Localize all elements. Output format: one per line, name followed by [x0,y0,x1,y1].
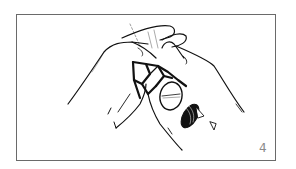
thread-line [130,24,158,48]
step-number: 4 [259,142,267,154]
netting-shuttle [177,101,204,131]
net-mesh [133,62,186,98]
hands-knot-illustration [0,0,296,169]
right-hand [138,42,244,150]
arrow-marker [210,122,216,130]
